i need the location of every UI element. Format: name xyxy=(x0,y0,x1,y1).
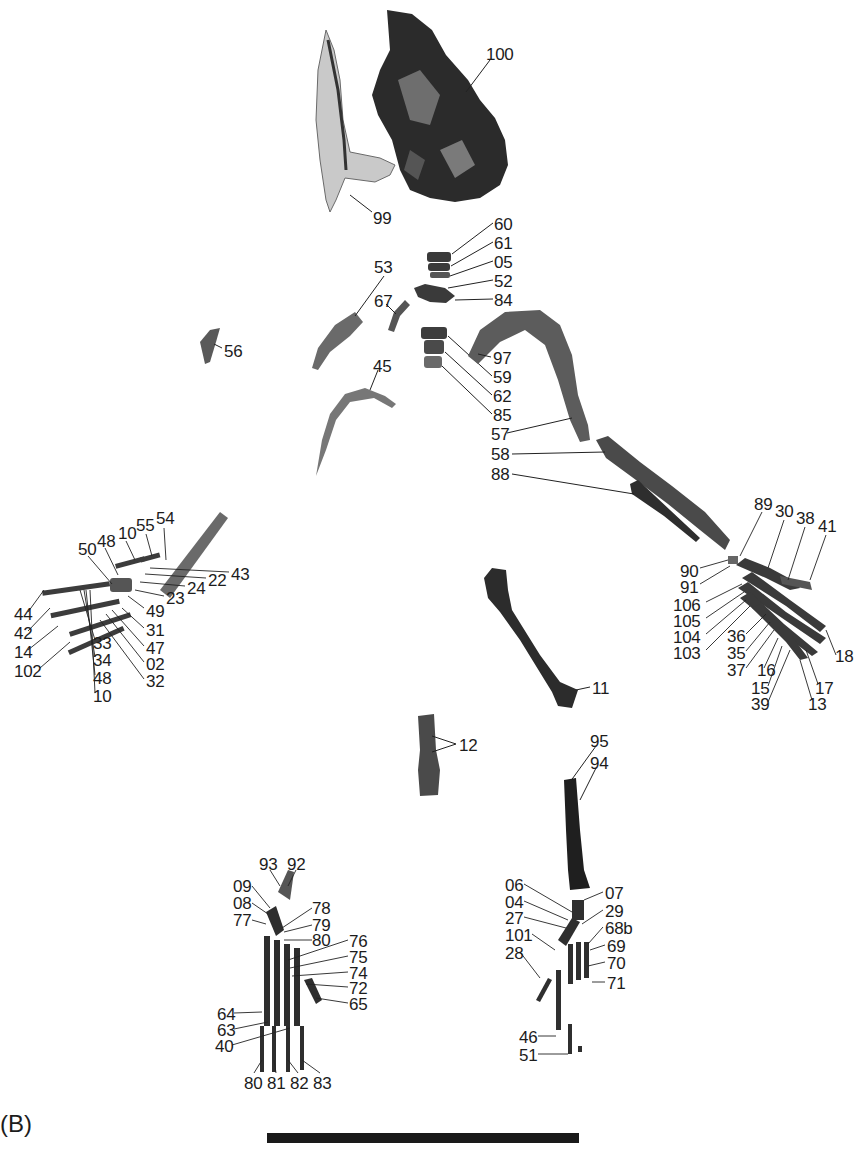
specimen-label: 16 xyxy=(757,662,775,679)
specimen-label: 80 xyxy=(312,932,330,949)
specimen-label: 36 xyxy=(727,628,745,645)
scale-bar xyxy=(267,1133,579,1143)
specimen-label: 12 xyxy=(459,737,477,754)
humerus-58 xyxy=(596,436,730,550)
specimen-label: 91 xyxy=(680,579,698,596)
specimen-label: 97 xyxy=(493,350,511,367)
specimen-label: 99 xyxy=(373,210,391,227)
specimen-label: 61 xyxy=(494,235,512,252)
specimen-label: 50 xyxy=(78,541,96,558)
specimen-label: 23 xyxy=(166,590,184,607)
specimen-label: 92 xyxy=(287,856,305,873)
specimen-label: 40 xyxy=(215,1038,233,1055)
specimen-label: 56 xyxy=(224,343,242,360)
tibia-95 xyxy=(564,778,590,890)
specimen-label: 60 xyxy=(494,216,512,233)
specimen-label: 34 xyxy=(93,652,111,669)
specimen-label: 45 xyxy=(373,358,391,375)
specimen-label: 39 xyxy=(751,696,769,713)
specimen-label: 07 xyxy=(605,885,623,902)
specimen-label: 42 xyxy=(14,625,32,642)
specimen-label: 05 xyxy=(494,254,512,271)
specimen-label: 02 xyxy=(146,656,164,673)
specimen-label: 44 xyxy=(14,606,32,623)
specimen-label: 93 xyxy=(259,856,277,873)
specimen-label: 27 xyxy=(505,910,523,927)
specimen-label: 95 xyxy=(590,733,608,750)
specimen-label: 24 xyxy=(187,580,205,597)
specimen-label: 80 xyxy=(244,1075,262,1092)
specimen-label: 62 xyxy=(493,388,511,405)
specimen-label: 84 xyxy=(494,292,512,309)
specimen-label: 85 xyxy=(493,407,511,424)
specimen-label: 78 xyxy=(312,900,330,917)
specimen-label: 81 xyxy=(267,1075,285,1092)
specimen-label: 103 xyxy=(673,645,700,662)
specimen-label: 06 xyxy=(505,877,523,894)
specimen-label: 32 xyxy=(146,673,164,690)
specimen-label: 67 xyxy=(374,293,392,310)
specimen-label: 29 xyxy=(605,903,623,920)
specimen-label: 68b xyxy=(605,920,632,937)
specimen-label: 22 xyxy=(208,572,226,589)
specimen-label: 70 xyxy=(607,955,625,972)
specimen-label: 55 xyxy=(136,517,154,534)
specimen-label: 48 xyxy=(97,533,115,550)
vertebrae-stack-lower xyxy=(421,327,447,368)
specimen-label: 69 xyxy=(607,938,625,955)
specimen-label: 57 xyxy=(491,426,509,443)
specimen-label: 18 xyxy=(835,648,853,665)
specimen-label: 54 xyxy=(156,510,174,527)
skull-100 xyxy=(372,10,508,202)
scapula-57 xyxy=(468,310,590,442)
specimen-label: 82 xyxy=(290,1075,308,1092)
specimen-label: 51 xyxy=(519,1047,537,1064)
specimen-label: 28 xyxy=(505,945,523,962)
bone-12 xyxy=(418,714,440,796)
specimen-label: 30 xyxy=(775,503,793,520)
specimen-label: 41 xyxy=(818,518,836,535)
panel-label: (B) xyxy=(0,1110,32,1138)
specimen-label: 83 xyxy=(313,1075,331,1092)
specimen-label: 35 xyxy=(727,645,745,662)
specimen-label: 10 xyxy=(118,525,136,542)
rib-53 xyxy=(312,312,363,370)
specimen-label: 10 xyxy=(93,688,111,705)
specimen-label: 71 xyxy=(607,975,625,992)
specimen-label: 89 xyxy=(754,496,772,513)
specimen-label: 09 xyxy=(233,878,251,895)
vertebrae-stack-upper xyxy=(414,252,455,303)
specimen-label: 48 xyxy=(93,670,111,687)
specimen-label: 59 xyxy=(493,369,511,386)
specimen-label: 38 xyxy=(796,510,814,527)
right-foot-bones xyxy=(536,900,589,1054)
specimen-label: 43 xyxy=(231,566,249,583)
specimen-label: 94 xyxy=(590,755,608,772)
specimen-label: 65 xyxy=(349,996,367,1013)
specimen-label: 08 xyxy=(233,895,251,912)
specimen-label: 11 xyxy=(592,680,609,697)
specimen-label: 102 xyxy=(14,663,41,680)
specimen-label: 33 xyxy=(93,635,111,652)
specimen-label: 88 xyxy=(491,466,509,483)
femur-11 xyxy=(484,568,578,708)
figure-canvas: 1009960610552845367569759628545575888545… xyxy=(0,0,861,1151)
specimen-label: 31 xyxy=(146,622,164,639)
specimen-label: 14 xyxy=(14,644,32,661)
specimen-label: 13 xyxy=(808,696,826,713)
specimen-label: 100 xyxy=(486,46,513,63)
specimen-label: 77 xyxy=(233,912,251,929)
specimen-label: 46 xyxy=(519,1029,537,1046)
specimen-label: 52 xyxy=(494,273,512,290)
specimen-label: 101 xyxy=(505,927,532,944)
specimen-label: 37 xyxy=(727,662,745,679)
specimen-label: 49 xyxy=(146,603,164,620)
specimen-label: 58 xyxy=(491,446,509,463)
rib-45 xyxy=(316,388,396,476)
skeleton-artwork xyxy=(0,0,861,1151)
specimen-label: 53 xyxy=(374,259,392,276)
